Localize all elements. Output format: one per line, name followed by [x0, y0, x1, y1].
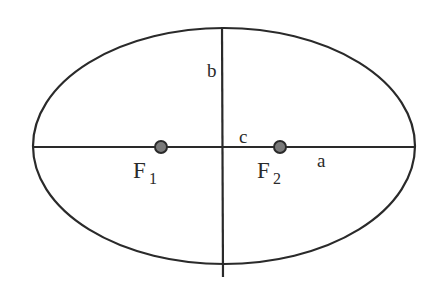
svg-text:2: 2: [273, 170, 281, 187]
minor-axis-line: [222, 27, 223, 277]
svg-text:F: F: [133, 158, 146, 183]
label-b: b: [207, 60, 217, 81]
label-c: c: [239, 126, 247, 147]
label-f2: F 2: [257, 158, 281, 187]
focus-f2-dot: [274, 141, 286, 153]
label-a: a: [317, 150, 326, 171]
svg-text:1: 1: [149, 170, 157, 187]
ellipse-diagram: b c a F 1 F 2: [0, 0, 437, 293]
focus-f1-dot: [155, 141, 167, 153]
label-f1: F 1: [133, 158, 157, 187]
svg-text:F: F: [257, 158, 270, 183]
